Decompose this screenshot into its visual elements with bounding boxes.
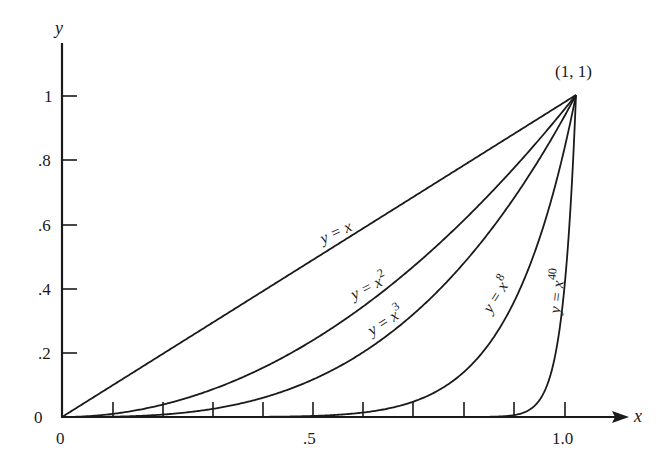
curve-label-x40: y = x40 bbox=[541, 267, 569, 316]
curve-y-x bbox=[62, 95, 576, 417]
curve-label-x3: y = x3 bbox=[360, 299, 407, 341]
y-tick-label: 0 bbox=[34, 408, 43, 427]
power-functions-chart: y 0 .2 .4 .6 .8 1 x 0 .5 1.0 (1, bbox=[0, 0, 672, 473]
curve-label-x2: y = x2 bbox=[344, 265, 391, 304]
y-tick-label: .8 bbox=[38, 151, 51, 170]
y-tick-label: .6 bbox=[38, 216, 51, 235]
x-tick-label-one: 1.0 bbox=[552, 429, 573, 448]
x-tick-labels: 0 .5 1.0 bbox=[56, 429, 573, 448]
y-tick-label: .2 bbox=[38, 344, 51, 363]
point-annotation: (1, 1) bbox=[555, 62, 592, 81]
curves bbox=[62, 95, 576, 417]
x-tick-label-zero: 0 bbox=[56, 429, 65, 448]
curve-label-x1: y = x bbox=[315, 217, 354, 248]
y-tick-labels: 0 .2 .4 .6 .8 1 bbox=[34, 87, 53, 427]
y-tick-label: 1 bbox=[44, 87, 53, 106]
y-tick-label: .4 bbox=[38, 280, 51, 299]
x-axis-label: x bbox=[633, 406, 642, 426]
y-axis-label: y bbox=[53, 18, 63, 38]
y-ticks bbox=[62, 96, 77, 353]
x-tick-label-half: .5 bbox=[303, 429, 316, 448]
